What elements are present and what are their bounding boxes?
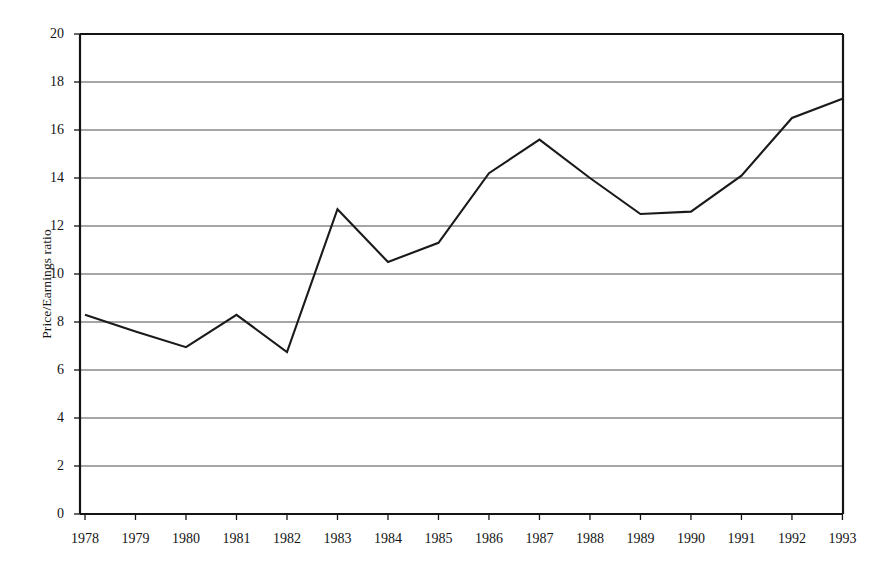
- y-tick-label: 6: [24, 363, 64, 377]
- y-tick-label: 18: [24, 75, 64, 89]
- gridlines-group: [80, 82, 843, 466]
- y-tick-label: 2: [24, 459, 64, 473]
- y-tick-label: 16: [24, 123, 64, 137]
- plot-area-svg: [0, 0, 878, 568]
- y-tick-label: 10: [24, 267, 64, 281]
- y-tick-label: 0: [24, 507, 64, 521]
- data-series-group: [85, 99, 842, 352]
- data-line-series-0: [85, 99, 842, 352]
- line-chart-figure: Price/Earnings ratio 02468101214161820 1…: [0, 0, 878, 568]
- x-tick-label: 1993: [812, 532, 872, 546]
- y-tick-label: 20: [24, 27, 64, 41]
- y-tick-label: 12: [24, 219, 64, 233]
- y-tick-label: 4: [24, 411, 64, 425]
- y-tick-label: 8: [24, 315, 64, 329]
- y-tick-label: 14: [24, 171, 64, 185]
